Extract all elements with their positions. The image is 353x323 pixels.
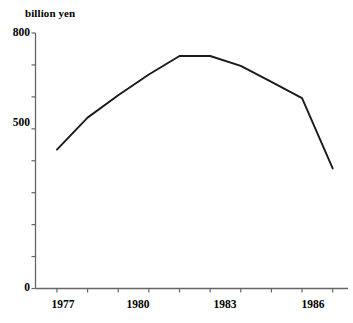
y-axis-group (32, 33, 36, 289)
chart-plot-area (0, 0, 353, 323)
line-chart: billion yen 800 500 0 1977 1980 1983 198… (0, 0, 353, 323)
x-axis-group (36, 289, 349, 293)
data-series-line (57, 56, 333, 168)
